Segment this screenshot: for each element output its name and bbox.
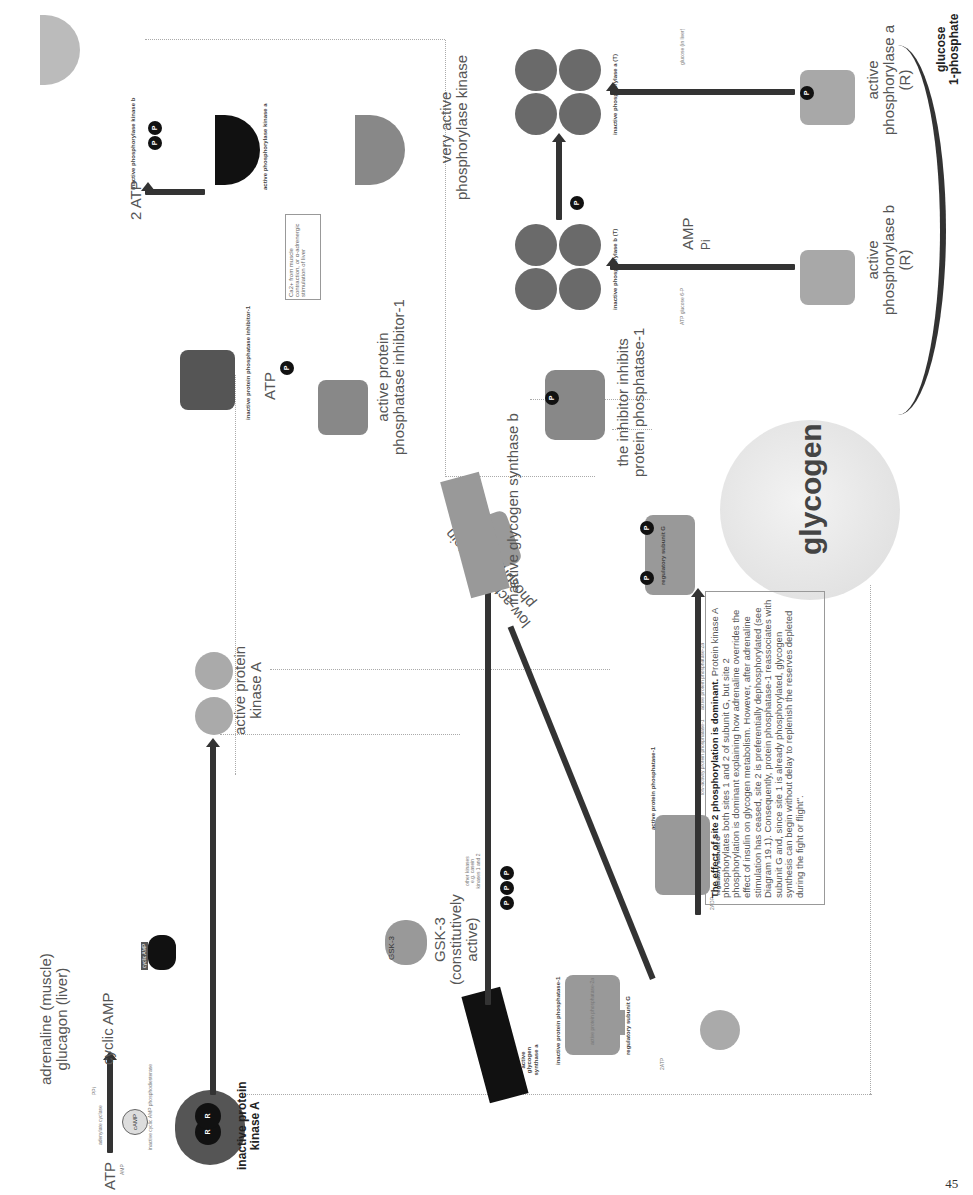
hormone-label: adrenaline (muscle) glucagon (liver)	[38, 953, 70, 1085]
amp-label: AMP	[120, 1164, 125, 1175]
inactive-phosphorylase-a-icon	[515, 45, 605, 135]
connector-line	[870, 585, 871, 1095]
inactive-pp1-label: inactive protein phosphatase-1	[555, 977, 561, 1065]
glycogen-breakdown-arrow	[850, 45, 946, 415]
active-pka-icon	[195, 697, 233, 735]
inhibitor-pp1-complex-icon	[545, 370, 605, 440]
other-kinases-label: other kinases e.g. casein kinases 1 and …	[465, 852, 481, 890]
phosphate-icon: P	[570, 196, 584, 210]
page-number: 45	[945, 1177, 958, 1191]
connector-line	[270, 669, 610, 670]
phosphorylase-kinase-step-arrow	[556, 140, 562, 220]
inactive-phosphorylase-b-icon	[515, 220, 605, 310]
phosphodiesterase-icon: cAMP	[122, 1109, 148, 1135]
adenylate-cyclase-label: adenylate cyclase	[98, 1105, 103, 1145]
gsk3-badge: GSK-3	[388, 936, 396, 960]
cyclic-amp-label: cyclic AMP	[100, 992, 116, 1065]
active-inhibitor-1-label: active protein phosphatase inhibitor-1	[375, 299, 407, 455]
active-phosphorylase-kinase-icon	[215, 115, 260, 185]
active-glycogen-synthase-a-label: active glycogen synthase a	[520, 1040, 539, 1080]
two-atp-label: 2ATP	[660, 1058, 665, 1070]
glucose-inhibitor-label: glucose (in liver)	[680, 29, 685, 65]
active-pp1-label: active protein phosphatase-1	[650, 747, 656, 830]
pka-to-subunit-arrow	[695, 595, 701, 915]
active-inhibitor-1-icon	[318, 380, 368, 435]
phosphorylase-a-activation-arrow	[610, 89, 795, 95]
active-phosphorylase-kinase-label: active phosphorylase kinase a	[262, 103, 268, 190]
camp-badge: cyclic AMP	[141, 942, 148, 970]
phosphate-icon: P	[500, 896, 514, 910]
active-pka-icon	[195, 652, 233, 690]
active-glycogen-synthase-a-icon	[461, 987, 528, 1104]
atp-label: ATP	[102, 1162, 118, 1190]
phosphorylase-b-activation-arrow	[610, 264, 795, 270]
pp2a-label: active protein phosphatase-2a	[590, 978, 595, 1045]
calcium-note: Ca2+ from muscle contraction, or α-adren…	[285, 214, 321, 300]
pka-icon	[700, 1010, 740, 1050]
regulatory-subunit-label: regulatory subunit G	[625, 996, 631, 1055]
inactive-glycogen-synthase-b-label: inactive glycogen synthase b	[505, 413, 521, 605]
glucose-1-phosphate-label: glucose 1-phosphate	[935, 14, 960, 85]
synthase-inactivation-arrow	[485, 585, 491, 1005]
connector-line	[242, 1094, 872, 1095]
active-pka-label: active protein kinase A	[232, 646, 264, 735]
phosphate-site-1-icon: P	[640, 571, 654, 585]
phosphate-icon: P	[280, 361, 294, 375]
connector-line	[145, 39, 445, 40]
camp-bound-r-icon	[148, 935, 176, 970]
diagram-canvas: adrenaline (muscle) glucagon (liver) ATP…	[0, 0, 973, 1195]
adenylate-cyclase-arrow	[107, 1058, 113, 1153]
site-2-note: The effect of site 2 phosphorylation is …	[705, 591, 825, 905]
active-phosphorylase-b-icon	[800, 250, 855, 305]
inhibits-pp1-label: the inhibitor inhibits protein phosphata…	[615, 328, 647, 477]
phosphorylase-kinase-activation-arrow	[145, 189, 205, 195]
glycogen-label: glycogen	[795, 423, 827, 555]
amp-label: AMP	[680, 217, 696, 250]
phosphorylase-b-inhibitors-label: ATP glucose 6-P	[680, 288, 685, 325]
r-subunit-icon: R	[195, 1103, 221, 1129]
phosphate-icon: P	[148, 121, 162, 135]
inhibitor-atp-label: ATP	[262, 372, 278, 400]
inactive-phosphorylase-kinase-icon	[40, 15, 80, 85]
pp2a-icon	[605, 1010, 625, 1035]
regulatory-subunit-label: regulatory subunit G	[660, 526, 666, 585]
phosphate-icon: P	[800, 86, 814, 100]
inactive-inhibitor-1-label: inactive protein phosphatase inhibitor-1	[245, 306, 251, 420]
phosphate-site-2-icon: P	[640, 521, 654, 535]
pka-activation-arrow	[210, 745, 216, 1095]
gsk3-label: GSK-3 (constitutively active)	[432, 894, 479, 985]
inactive-inhibitor-1-icon	[180, 350, 235, 410]
phosphodiesterase-label: inactive cyclic AMP phosphodiesterase	[148, 1064, 153, 1150]
very-active-phosphorylase-kinase-label: very active phosphorylase kinase	[438, 55, 470, 200]
pi-label: Pi	[700, 239, 713, 250]
pka-pp1-arrow	[508, 625, 656, 980]
phosphate-icon: P	[545, 391, 559, 405]
ppi-label: PPi	[92, 1087, 97, 1095]
very-active-phosphorylase-kinase-icon	[355, 115, 405, 185]
active-pp1-complex-icon	[655, 815, 710, 895]
phosphate-icon: P	[500, 866, 514, 880]
inactive-phosphorylase-kinase-label: inactive phosphorylase kinase b	[130, 98, 136, 190]
inactive-pka-label: inactive protein kinase A	[236, 1081, 261, 1170]
phosphate-icon: P	[148, 136, 162, 150]
phosphate-icon: P	[500, 881, 514, 895]
